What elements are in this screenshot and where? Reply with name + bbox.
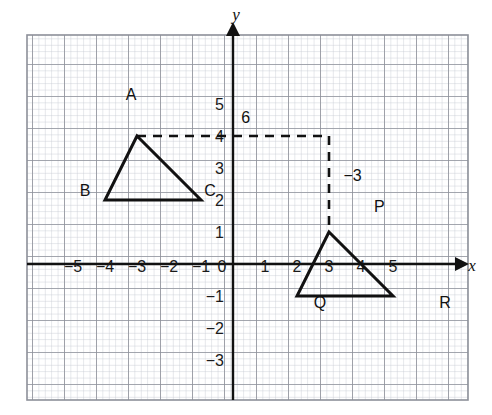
x-axis-title: x [467,256,476,275]
x-tick-label-origin: 0 [218,258,227,275]
vertex-label-b: B [80,182,91,199]
vertex-label-r: R [439,294,451,311]
y-tick-label: −2 [206,320,224,337]
y-tick-label: −1 [206,288,224,305]
x-tick-label: 1 [261,258,270,275]
x-tick-label: 5 [389,258,398,275]
grid-pattern [27,35,468,400]
horizontal-translation-label: 6 [241,109,250,126]
x-tick-label: −3 [128,258,146,275]
vertex-label-c: C [204,182,216,199]
vertex-label-p: P [374,198,385,215]
x-tick-label: 2 [293,258,302,275]
figure-container: −5−4−3−2−1012345 54321−1−2−3 x y 6 −3 A … [0,0,492,415]
y-tick-label: 1 [215,224,224,241]
vertex-label-a: A [126,86,137,103]
grid-area [27,35,468,400]
x-tick-label: −1 [192,258,210,275]
y-tick-label: 3 [215,160,224,177]
y-tick-label: −3 [206,352,224,369]
x-tick-label: −5 [64,258,82,275]
y-tick-label: 2 [215,192,224,209]
vertex-label-q: Q [314,294,326,311]
y-tick-label: 5 [215,96,224,113]
y-axis-title: y [230,5,240,24]
x-tick-label: −2 [160,258,178,275]
x-tick-label: 3 [325,258,334,275]
x-tick-label: −4 [96,258,114,275]
vertical-translation-label: −3 [343,167,361,184]
coordinate-plane: −5−4−3−2−1012345 54321−1−2−3 x y 6 −3 A … [0,0,492,415]
